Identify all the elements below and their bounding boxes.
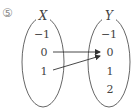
problem-number: ⑤ bbox=[2, 6, 13, 20]
codomain-element: 2 bbox=[107, 83, 114, 96]
codomain-label: Y bbox=[105, 9, 114, 23]
domain-element: 0 bbox=[41, 46, 48, 59]
domain-label: X bbox=[38, 9, 48, 23]
codomain-element: 1 bbox=[107, 65, 114, 78]
domain-element: 1 bbox=[41, 65, 48, 78]
mapping-arrow-1-to-0 bbox=[53, 56, 100, 70]
codomain-element: 0 bbox=[107, 46, 114, 59]
mapping-diagram: ⑤ X −1 0 1 Y −1 0 1 2 bbox=[0, 0, 140, 111]
domain-element: −1 bbox=[34, 28, 50, 41]
codomain-element: −1 bbox=[101, 28, 117, 41]
